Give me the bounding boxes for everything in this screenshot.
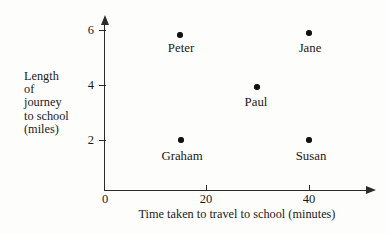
x-axis-tick-40 (309, 185, 310, 191)
y-axis-tick-label-2: 2 (80, 134, 94, 147)
x-axis-tick-label-20: 20 (194, 193, 218, 206)
x-axis-tick-label-0: 0 (93, 193, 117, 206)
y-axis-tick-6 (99, 30, 106, 31)
y-axis-tick-label-4: 4 (80, 79, 94, 92)
data-point-jane (306, 30, 311, 35)
y-axis-tick-label-6: 6 (80, 24, 94, 37)
data-point-label-peter: Peter (168, 42, 194, 55)
data-point-susan (306, 137, 311, 142)
data-point-label-susan: Susan (296, 150, 327, 163)
data-point-label-paul: Paul (245, 96, 268, 109)
data-point-graham (178, 137, 183, 142)
y-axis-line (104, 24, 105, 191)
x-axis-tick-label-40: 40 (297, 193, 321, 206)
y-axis-tick-4 (99, 85, 106, 86)
y-axis-title: Length of journey to school (miles) (24, 70, 69, 136)
scatter-chart: 6 4 2 0 20 40 Length of journey to schoo… (0, 0, 388, 234)
x-axis-title: Time taken to travel to school (minutes) (104, 208, 370, 220)
y-axis-arrow-icon (101, 15, 109, 25)
x-axis-arrow-icon (366, 186, 376, 194)
x-axis-line (104, 190, 368, 191)
data-point-label-jane: Jane (299, 42, 322, 55)
data-point-paul (254, 84, 259, 89)
x-axis-tick-20 (206, 185, 207, 191)
data-point-peter (177, 32, 182, 37)
data-point-label-graham: Graham (161, 150, 202, 163)
y-axis-tick-2 (99, 140, 106, 141)
